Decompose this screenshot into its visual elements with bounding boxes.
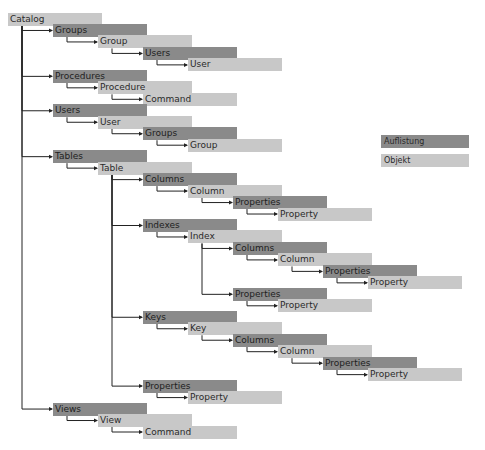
node-label: Columns xyxy=(235,335,274,345)
node-property: Property xyxy=(188,391,282,404)
node-property: Property xyxy=(368,368,462,381)
node-label: Column xyxy=(190,186,224,196)
node-label: Columns xyxy=(235,243,274,253)
node-label: Key xyxy=(190,323,206,333)
node-label: Indexes xyxy=(145,220,180,230)
legend-collection-label: Auflistung xyxy=(384,137,424,146)
node-label: Property xyxy=(370,369,408,379)
node-label: Catalog xyxy=(10,14,45,24)
node-label: Properties xyxy=(325,266,370,276)
node-label: Groups xyxy=(145,128,177,138)
legend-object: Objekt xyxy=(381,154,469,167)
node-label: Users xyxy=(145,48,170,58)
node-label: User xyxy=(100,117,121,127)
node-property: Property xyxy=(278,208,372,221)
node-label: Command xyxy=(145,94,191,104)
node-label: Property xyxy=(280,300,318,310)
node-label: Property xyxy=(190,392,228,402)
legend-collection: Auflistung xyxy=(381,135,469,148)
node-property: Property xyxy=(278,299,372,312)
node-label: Groups xyxy=(55,25,87,35)
node-label: Properties xyxy=(145,381,190,391)
node-label: Column xyxy=(280,254,314,264)
node-label: User xyxy=(190,59,211,69)
node-label: Columns xyxy=(145,174,184,184)
node-label: Tables xyxy=(55,151,83,161)
node-label: Procedure xyxy=(100,82,145,92)
node-label: Index xyxy=(190,231,215,241)
node-label: Keys xyxy=(145,312,166,322)
node-user: User xyxy=(188,58,282,71)
node-label: Group xyxy=(100,36,127,46)
node-label: Properties xyxy=(235,289,280,299)
node-label: Properties xyxy=(235,197,280,207)
node-label: Property xyxy=(370,277,408,287)
node-group: Group xyxy=(188,139,282,152)
node-label: Group xyxy=(190,140,217,150)
node-label: Property xyxy=(280,209,318,219)
catalog-object-model-diagram: CatalogGroupsGroupUsersUserProceduresPro… xyxy=(0,0,485,450)
node-label: Table xyxy=(100,163,123,173)
node-label: Views xyxy=(55,404,81,414)
node-label: View xyxy=(100,415,121,425)
node-label: Users xyxy=(55,105,80,115)
node-label: Properties xyxy=(325,358,370,368)
node-label: Command xyxy=(145,427,191,437)
node-property: Property xyxy=(368,276,462,289)
legend-object-label: Objekt xyxy=(384,156,410,165)
node-label: Column xyxy=(280,346,314,356)
node-label: Procedures xyxy=(55,71,105,81)
node-command: Command xyxy=(143,426,237,439)
node-command: Command xyxy=(143,93,237,106)
